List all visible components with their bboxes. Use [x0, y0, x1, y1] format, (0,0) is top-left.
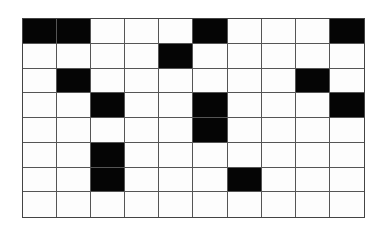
empty-cell — [228, 69, 262, 94]
filled-cell — [159, 44, 193, 69]
empty-cell — [228, 19, 262, 44]
empty-cell — [159, 93, 193, 118]
empty-cell — [262, 168, 296, 193]
empty-cell — [159, 69, 193, 94]
empty-cell — [193, 143, 227, 168]
empty-cell — [23, 192, 57, 217]
empty-cell — [91, 69, 125, 94]
filled-cell — [193, 118, 227, 143]
empty-cell — [228, 143, 262, 168]
filled-cell — [91, 93, 125, 118]
empty-cell — [23, 168, 57, 193]
empty-cell — [57, 93, 91, 118]
empty-cell — [262, 93, 296, 118]
empty-cell — [57, 143, 91, 168]
filled-cell — [91, 143, 125, 168]
empty-cell — [330, 143, 364, 168]
empty-cell — [330, 118, 364, 143]
empty-cell — [23, 118, 57, 143]
empty-cell — [296, 118, 330, 143]
empty-cell — [125, 44, 159, 69]
empty-cell — [57, 118, 91, 143]
empty-cell — [330, 44, 364, 69]
empty-cell — [23, 44, 57, 69]
empty-cell — [228, 93, 262, 118]
empty-cell — [262, 192, 296, 217]
empty-cell — [262, 19, 296, 44]
empty-cell — [159, 118, 193, 143]
empty-cell — [296, 143, 330, 168]
filled-cell — [296, 69, 330, 94]
empty-cell — [330, 192, 364, 217]
empty-cell — [57, 168, 91, 193]
empty-cell — [228, 118, 262, 143]
empty-cell — [91, 19, 125, 44]
empty-cell — [125, 143, 159, 168]
empty-cell — [296, 19, 330, 44]
empty-cell — [91, 192, 125, 217]
empty-cell — [262, 118, 296, 143]
empty-cell — [296, 192, 330, 217]
empty-cell — [91, 44, 125, 69]
empty-cell — [57, 192, 91, 217]
empty-cell — [125, 19, 159, 44]
empty-cell — [125, 93, 159, 118]
filled-cell — [330, 19, 364, 44]
empty-cell — [193, 44, 227, 69]
empty-cell — [330, 168, 364, 193]
empty-cell — [193, 168, 227, 193]
empty-cell — [193, 69, 227, 94]
filled-cell — [57, 19, 91, 44]
filled-cell — [193, 93, 227, 118]
empty-cell — [159, 192, 193, 217]
filled-cell — [330, 93, 364, 118]
empty-cell — [193, 192, 227, 217]
filled-cell — [91, 168, 125, 193]
empty-cell — [262, 143, 296, 168]
empty-cell — [228, 44, 262, 69]
filled-cell — [23, 19, 57, 44]
empty-cell — [296, 44, 330, 69]
empty-cell — [125, 69, 159, 94]
empty-cell — [296, 93, 330, 118]
empty-cell — [159, 168, 193, 193]
filled-cell — [193, 19, 227, 44]
pixel-grid — [22, 18, 365, 218]
empty-cell — [23, 93, 57, 118]
empty-cell — [23, 143, 57, 168]
empty-cell — [125, 118, 159, 143]
empty-cell — [159, 143, 193, 168]
filled-cell — [57, 69, 91, 94]
empty-cell — [125, 192, 159, 217]
empty-cell — [23, 69, 57, 94]
empty-cell — [57, 44, 91, 69]
empty-cell — [159, 19, 193, 44]
empty-cell — [330, 69, 364, 94]
empty-cell — [125, 168, 159, 193]
empty-cell — [262, 44, 296, 69]
empty-cell — [296, 168, 330, 193]
empty-cell — [262, 69, 296, 94]
empty-cell — [91, 118, 125, 143]
empty-cell — [228, 192, 262, 217]
filled-cell — [228, 168, 262, 193]
